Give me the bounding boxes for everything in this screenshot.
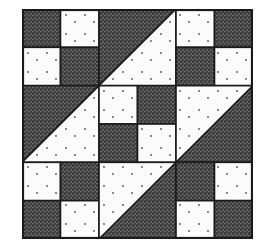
patch-corner-bottom-right <box>176 162 253 239</box>
square-dark <box>22 201 61 239</box>
square-dark <box>22 9 61 47</box>
patch-edge-top <box>99 9 176 86</box>
square-dark <box>61 162 100 200</box>
patch-corner-top-right <box>176 9 253 86</box>
square-dark <box>99 124 138 162</box>
patch-edge-left <box>22 86 99 163</box>
square-dark <box>176 47 215 85</box>
square-dark <box>138 86 177 124</box>
square-light <box>176 9 215 47</box>
square-light <box>215 47 254 85</box>
square-light <box>215 162 254 200</box>
quilt-block-svg <box>22 9 253 239</box>
square-light <box>22 47 61 85</box>
square-light <box>22 162 61 200</box>
patch-layer <box>22 9 253 239</box>
square-light <box>138 124 177 162</box>
quilt-block-diagram <box>22 9 253 239</box>
patch-edge-right <box>176 86 253 163</box>
square-dark <box>215 201 254 239</box>
patch-edge-bottom <box>99 162 176 239</box>
square-light <box>99 86 138 124</box>
square-dark <box>176 162 215 200</box>
square-dark <box>215 9 254 47</box>
square-light <box>176 201 215 239</box>
patch-center <box>99 86 176 163</box>
square-light <box>61 201 100 239</box>
patch-corner-bottom-left <box>22 162 99 239</box>
patch-corner-top-left <box>22 9 99 86</box>
square-light <box>61 9 100 47</box>
square-dark <box>61 47 100 85</box>
